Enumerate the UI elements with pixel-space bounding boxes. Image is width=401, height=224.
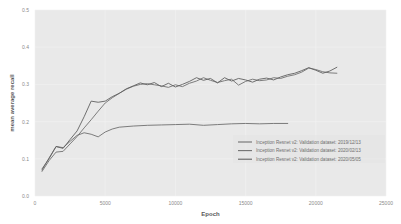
chart-container: 0.00.10.20.30.40.5 050001000015000200002…	[0, 0, 401, 224]
y-tick-label: 0.0	[22, 193, 29, 199]
y-tick-label: 0.1	[22, 156, 29, 162]
chart-legend[interactable]: Inception Resnet v2: Validation dataset:…	[233, 135, 385, 163]
y-tick-label: 0.4	[22, 44, 29, 50]
legend-label-3[interactable]: Inception Resnet v2: Validation dataset:…	[256, 157, 361, 162]
legend-label-1[interactable]: Inception Resnet v2: Validation dataset:…	[256, 140, 361, 145]
x-tick-label: 15000	[239, 200, 253, 206]
y-axis-title: mean average recall	[9, 74, 15, 132]
x-tick-label: 10000	[168, 200, 182, 206]
y-tick-label: 0.3	[22, 81, 29, 87]
x-tick-label: 5000	[100, 200, 111, 206]
x-tick-label: 20000	[309, 200, 323, 206]
y-tick-label: 0.5	[22, 7, 29, 13]
x-tick-label: 0	[34, 200, 37, 206]
y-tick-label: 0.2	[22, 119, 29, 125]
y-axis-tick-labels: 0.00.10.20.30.40.5	[22, 7, 29, 199]
line-chart: 0.00.10.20.30.40.5 050001000015000200002…	[0, 0, 401, 224]
plot-background	[35, 10, 386, 196]
x-axis-tick-labels: 0500010000150002000025000	[34, 200, 394, 206]
x-tick-label: 25000	[379, 200, 393, 206]
legend-label-2[interactable]: Inception Resnet v2: Validation dataset:…	[256, 148, 361, 153]
x-axis-title: Epoch	[201, 211, 220, 217]
